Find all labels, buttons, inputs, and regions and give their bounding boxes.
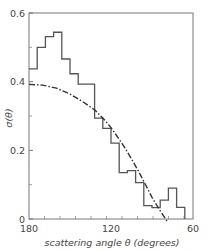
theory-curve-series <box>29 84 168 222</box>
y-tick-label: 0.2 <box>10 145 25 156</box>
x-axis-title: scattering angle θ (degrees) <box>45 237 180 248</box>
y-axis-title: σ(θ) <box>3 108 14 127</box>
y-tick-label: 0.4 <box>10 76 25 87</box>
x-tick-label: 120 <box>102 223 120 234</box>
y-tick-label: 0 <box>19 214 25 225</box>
x-tick-label: 180 <box>20 223 38 234</box>
y-tick-label: 0.6 <box>10 8 25 19</box>
x-tick-label: 60 <box>187 223 199 234</box>
chart: 18012060 00.20.40.6 scattering angle θ (… <box>0 0 208 251</box>
histogram-series <box>29 32 185 219</box>
